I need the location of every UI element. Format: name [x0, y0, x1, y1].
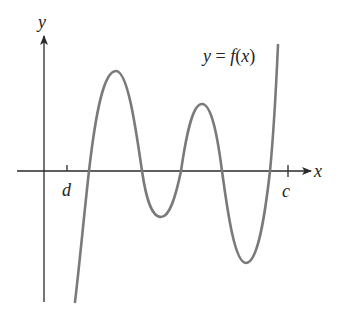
- tick-label-c: c: [282, 181, 290, 201]
- function-label: y = f(x): [201, 46, 255, 67]
- function-graph: y x d c y = f(x): [0, 0, 343, 319]
- y-axis-label: y: [36, 12, 46, 32]
- function-curve: [75, 45, 278, 302]
- function-label-close: ): [249, 46, 255, 67]
- tick-label-d: d: [62, 180, 72, 200]
- function-label-x: x: [240, 46, 249, 66]
- function-label-y: y: [201, 46, 211, 66]
- x-axis-label: x: [313, 161, 322, 181]
- function-label-eq: =: [211, 46, 230, 66]
